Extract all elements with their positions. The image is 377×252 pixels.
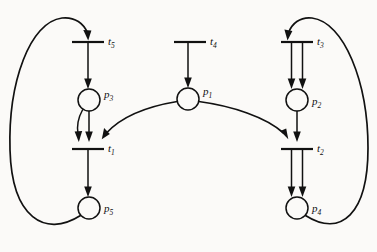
- place-p2-circle[interactable]: [286, 89, 308, 111]
- label-t3: t3: [317, 35, 324, 50]
- arc-p2-to-t2: [293, 111, 301, 142]
- arrow-head-p2-to-t2: [293, 132, 301, 143]
- arrow-head-t5-to-p3: [84, 79, 92, 90]
- arc-p5-to-t5-path: [10, 18, 88, 225]
- label-p4: p4: [311, 202, 322, 217]
- label-p5: p5: [103, 202, 114, 217]
- arrow-head-p3-to-t1-b: [85, 132, 93, 143]
- arc-p1-to-t2-path: [199, 102, 284, 134]
- arc-p5-to-t5: [10, 18, 92, 225]
- label-t2: t2: [317, 142, 324, 157]
- arc-p1-to-t1: [102, 102, 177, 140]
- label-t4: t4: [210, 35, 217, 50]
- arrow-head-p5-to-t5: [83, 30, 91, 41]
- arc-t4-to-p1: [184, 42, 192, 88]
- label-p2: p2: [311, 95, 322, 110]
- arrow-head-t4-to-p1: [184, 78, 192, 89]
- arrow-head-t3-to-p2-a: [288, 79, 296, 90]
- arc-p1-to-t2: [199, 102, 288, 140]
- arc-t3-to-p2: [288, 42, 307, 89]
- petri-net-canvas: t5 t4 t3 t1 t2 p3 p1 p2 p5 p4: [0, 0, 377, 252]
- label-t5: t5: [108, 35, 115, 50]
- label-p1: p1: [202, 85, 212, 100]
- arc-t2-to-p4: [288, 149, 307, 197]
- arrow-head-t3-to-p2-b: [299, 79, 307, 90]
- arrow-head-t2-to-p4-b: [299, 187, 307, 198]
- label-p3: p3: [103, 88, 114, 103]
- arrow-head-p3-to-t1-a: [75, 131, 83, 142]
- petri-net-figure: t5 t4 t3 t1 t2 p3 p1 p2 p5 p4: [0, 0, 377, 252]
- arc-t5-to-p3: [84, 42, 92, 89]
- place-p3-circle[interactable]: [78, 89, 100, 111]
- arrow-head-t2-to-p4-a: [288, 187, 296, 198]
- place-p5-circle[interactable]: [78, 197, 100, 219]
- arc-p3-to-t1: [75, 110, 93, 142]
- place-p4-circle[interactable]: [286, 197, 308, 219]
- arrow-head-p4-to-t3: [284, 29, 292, 40]
- label-t1: t1: [108, 142, 115, 157]
- arc-t1-to-p5: [84, 149, 92, 197]
- arrow-head-p1-to-t2: [280, 128, 288, 139]
- arc-p3-to-t1-path-a: [78, 110, 83, 134]
- arc-p4-to-t3-path: [289, 18, 369, 224]
- place-p1-circle[interactable]: [177, 88, 199, 110]
- arrow-head-t1-to-p5: [84, 187, 92, 198]
- arc-p1-to-t1-path: [107, 102, 178, 134]
